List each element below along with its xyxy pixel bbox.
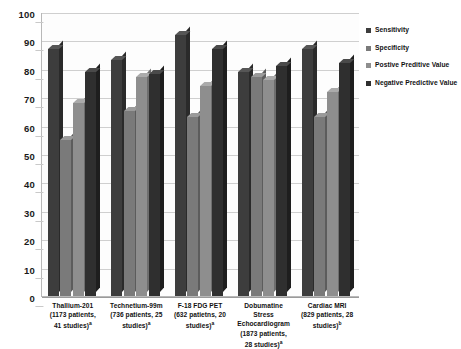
bar-face — [302, 49, 313, 296]
bar — [339, 63, 350, 296]
chart-legend: SensitivitySpecificityPostive Preditive … — [366, 26, 461, 96]
y-axis-tick-label: 100 — [19, 9, 35, 20]
x-axis-label-line: F-18 FDG PET — [168, 301, 232, 310]
bar-face — [251, 77, 262, 296]
y-axis-tick-label: 0 — [30, 293, 35, 304]
bar — [175, 35, 186, 296]
square-marker-icon — [366, 81, 371, 86]
x-axis-label-line: 41 studies)a — [41, 319, 105, 330]
bar — [302, 49, 313, 296]
bar-face — [85, 72, 96, 296]
x-axis-label-line: (632 patietns, 20 — [168, 310, 232, 319]
bar — [73, 103, 84, 296]
plot-area: 1009080706050403020100 — [41, 13, 359, 297]
bar-face — [175, 35, 186, 296]
bar-face — [339, 63, 350, 296]
x-axis-label-line: Dobumatine — [232, 301, 296, 310]
bar — [136, 77, 147, 296]
footnote-marker: a — [211, 320, 214, 326]
y-axis-tick-label: 90 — [24, 37, 35, 48]
bar — [327, 92, 338, 296]
footnote-marker: a — [89, 320, 92, 326]
bar-face — [276, 66, 287, 296]
y-axis-tick-label: 10 — [24, 264, 35, 275]
square-marker-icon — [366, 46, 371, 51]
bar — [263, 80, 274, 296]
y-axis-tick-label: 40 — [24, 179, 35, 190]
y-axis-tick-label: 20 — [24, 236, 35, 247]
bar-face — [238, 72, 249, 296]
footnote-marker: b — [338, 320, 341, 326]
x-axis-label-line: Cardiac MRI — [295, 301, 359, 310]
legend-item-label: Sensitivity — [375, 26, 409, 34]
bar-face — [60, 140, 71, 296]
bar-group — [106, 13, 170, 296]
x-axis-label-line: (1873 patients, — [232, 329, 296, 338]
bar — [48, 49, 59, 296]
bar-face — [263, 80, 274, 296]
bar-group — [233, 13, 297, 296]
y-axis-tick-label: 70 — [24, 94, 35, 105]
x-axis-label-line: Technetium-99m — [105, 301, 169, 310]
x-axis-label-line: (829 patients, 28 — [295, 310, 359, 319]
bar — [124, 111, 135, 296]
bar — [276, 66, 287, 296]
bar-side-face — [223, 40, 227, 292]
bar-side-face — [96, 63, 100, 292]
x-axis-labels: Thallium-201(1173 patients,41 studies)aT… — [41, 301, 359, 346]
bar — [212, 49, 223, 296]
bar — [200, 86, 211, 296]
bar — [314, 117, 325, 296]
bar — [251, 77, 262, 296]
bar-group — [169, 13, 233, 296]
x-axis-category-label: Technetium-99m(736 patients, 25studies)a — [105, 301, 169, 331]
x-axis-category-label: Thallium-201(1173 patients,41 studies)a — [41, 301, 105, 331]
legend-item-label: Negative Predictive Value — [375, 79, 457, 87]
x-axis-category-label: DobumatineStressEchocardiogram(1873 pati… — [232, 301, 296, 349]
bar-face — [48, 49, 59, 296]
footnote-marker: a — [280, 339, 283, 345]
legend-item[interactable]: Negative Predictive Value — [366, 79, 461, 87]
x-axis-label-line: studies)b — [295, 319, 359, 330]
bar — [85, 72, 96, 296]
bar-side-face — [287, 58, 291, 292]
bar — [60, 140, 71, 296]
bar-face — [73, 103, 84, 296]
square-marker-icon — [366, 63, 371, 68]
y-axis-tick-label: 50 — [24, 151, 35, 162]
x-axis-label-line: Stress — [232, 310, 296, 319]
x-axis-label-line: (736 patients, 25 — [105, 310, 169, 319]
bar — [111, 60, 122, 296]
bar-side-face — [160, 66, 164, 292]
legend-item[interactable]: Postive Preditive Value — [366, 61, 461, 69]
bar-group — [42, 13, 106, 296]
bar — [149, 74, 160, 296]
bar-face — [136, 77, 147, 296]
legend-item[interactable]: Sensitivity — [366, 26, 461, 34]
legend-item-label: Postive Preditive Value — [375, 61, 449, 69]
legend-item[interactable]: Specificity — [366, 44, 461, 52]
x-axis-label-line: Echocardiogram — [232, 319, 296, 328]
bar-side-face — [350, 55, 354, 292]
x-axis-category-label: Cardiac MRI(829 patients, 28studies)b — [295, 301, 359, 331]
bar-face — [124, 111, 135, 296]
bar-face — [149, 74, 160, 296]
y-axis-tick-label: 30 — [24, 207, 35, 218]
x-axis-category-label: F-18 FDG PET(632 patietns, 20studies)a — [168, 301, 232, 331]
bar-face — [111, 60, 122, 296]
gridline: 0 — [42, 297, 359, 298]
x-axis-label-line: studies)a — [168, 319, 232, 330]
legend-item-label: Specificity — [375, 44, 409, 52]
bar-face — [212, 49, 223, 296]
y-axis-tick-label: 80 — [24, 65, 35, 76]
bar-face — [200, 86, 211, 296]
x-axis-label-line: 28 studies)a — [232, 338, 296, 349]
x-axis-label-line: (1173 patients, — [41, 310, 105, 319]
bar-groups — [42, 13, 359, 296]
x-axis-label-line: Thallium-201 — [41, 301, 105, 310]
bar-face — [314, 117, 325, 296]
bar — [187, 117, 198, 296]
bar-face — [187, 117, 198, 296]
bar-group — [296, 13, 360, 296]
